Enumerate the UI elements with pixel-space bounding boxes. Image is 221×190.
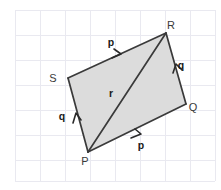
vertex-label-Q: Q — [189, 101, 198, 113]
vertex-label-S: S — [49, 72, 56, 84]
vector-p-top: p — [108, 36, 114, 48]
vector-p-bottom: p — [138, 139, 144, 151]
vector-r-middle: r — [109, 87, 113, 99]
diagram-canvas: PQRS pqrqp — [0, 0, 221, 190]
vertex-label-R: R — [167, 19, 175, 31]
vector-diagram-figure: PQRS pqrqp — [0, 0, 221, 190]
vertex-label-P: P — [81, 155, 88, 167]
vector-q-right: q — [178, 59, 184, 71]
vector-q-left: q — [59, 110, 65, 122]
